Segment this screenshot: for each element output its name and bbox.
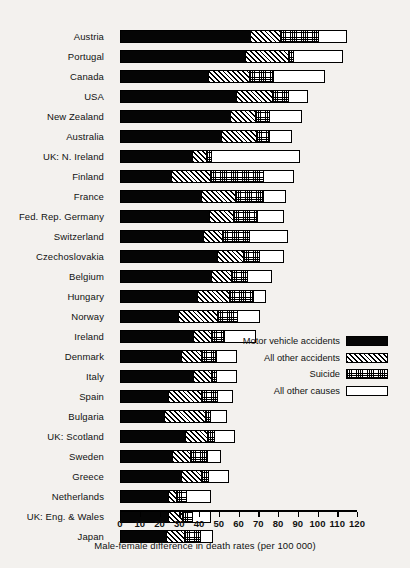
bar-segment-otheracc bbox=[197, 291, 229, 302]
country-label: Canada bbox=[0, 66, 112, 86]
chart-row: New Zealand bbox=[0, 106, 410, 126]
bar-segment-otheracc bbox=[185, 431, 207, 442]
bar-segment-other bbox=[208, 471, 228, 482]
bar-segment-other bbox=[263, 191, 285, 202]
bar-segment-motor bbox=[121, 211, 209, 222]
stacked-bar bbox=[120, 190, 286, 203]
stacked-bar bbox=[120, 130, 292, 143]
stacked-bar bbox=[120, 430, 235, 443]
bar-segment-suicide bbox=[201, 351, 215, 362]
country-label: Ireland bbox=[0, 326, 112, 346]
bar-segment-other bbox=[247, 271, 271, 282]
legend-swatch-other bbox=[346, 386, 388, 396]
chart-row: Canada bbox=[0, 66, 410, 86]
x-axis-title: Male-female difference in death rates (p… bbox=[0, 540, 410, 551]
bar-segment-other bbox=[249, 231, 286, 242]
bar-segment-otheracc bbox=[211, 271, 231, 282]
bar-segment-otheracc bbox=[178, 311, 217, 322]
country-label: Greece bbox=[0, 466, 112, 486]
legend-label: Motor vehicle accidents bbox=[243, 336, 340, 346]
axis-tick-label: 10 bbox=[134, 518, 145, 529]
stacked-bar-chart: AustriaPortugalCanadaUSANew ZealandAustr… bbox=[0, 0, 410, 568]
bar-segment-motor bbox=[121, 391, 168, 402]
chart-row: UK: N. Ireland bbox=[0, 146, 410, 166]
chart-row: Australia bbox=[0, 126, 410, 146]
bar-segment-otheracc bbox=[230, 111, 254, 122]
legend-label: All other causes bbox=[274, 386, 340, 396]
stacked-bar bbox=[120, 330, 256, 343]
legend-label: Suicide bbox=[310, 369, 341, 379]
bar-segment-otheracc bbox=[172, 451, 190, 462]
country-label: Italy bbox=[0, 366, 112, 386]
country-label: France bbox=[0, 186, 112, 206]
stacked-bar bbox=[120, 350, 237, 363]
bar-segment-other bbox=[211, 151, 298, 162]
bar-segment-motor bbox=[121, 251, 217, 262]
bar-segment-otheracc bbox=[171, 171, 210, 182]
bar-segment-motor bbox=[121, 311, 178, 322]
legend-item: Motor vehicle accidents bbox=[238, 333, 388, 350]
legend-swatch-motor bbox=[346, 336, 388, 346]
bar-segment-motor bbox=[121, 451, 172, 462]
bar-segment-otheracc bbox=[168, 391, 201, 402]
bar-segment-motor bbox=[121, 291, 197, 302]
country-label: Hungary bbox=[0, 286, 112, 306]
axis-tick bbox=[298, 512, 299, 517]
axis-tick bbox=[219, 512, 220, 517]
bar-segment-motor bbox=[121, 91, 236, 102]
bar-segment-motor bbox=[121, 151, 192, 162]
axis-tick bbox=[337, 512, 338, 517]
country-label: Spain bbox=[0, 386, 112, 406]
legend-item: Suicide bbox=[238, 366, 388, 383]
axis-tick-label: 50 bbox=[213, 518, 224, 529]
chart-row: Finland bbox=[0, 166, 410, 186]
axis-tick-label: 110 bbox=[330, 518, 345, 529]
axis-tick-label: 0 bbox=[117, 518, 122, 529]
bar-segment-suicide bbox=[201, 391, 217, 402]
legend-item: All other accidents bbox=[238, 350, 388, 367]
stacked-bar bbox=[120, 370, 237, 383]
axis-tick-label: 70 bbox=[253, 518, 264, 529]
country-label: UK: Eng. & Wales bbox=[0, 506, 112, 526]
bar-segment-other bbox=[288, 91, 306, 102]
country-label: Belgium bbox=[0, 266, 112, 286]
legend-swatch-suicide bbox=[346, 369, 388, 379]
bar-segment-suicide bbox=[217, 311, 237, 322]
axis-tick bbox=[179, 512, 180, 517]
bar-segment-suicide bbox=[243, 251, 259, 262]
bar-segment-suicide bbox=[256, 131, 269, 142]
legend-label: All other accidents bbox=[264, 353, 340, 363]
bar-segment-otheracc bbox=[193, 331, 211, 342]
axis-tick bbox=[318, 512, 319, 517]
bar-segment-motor bbox=[121, 171, 171, 182]
bar-segment-other bbox=[318, 31, 346, 42]
stacked-bar bbox=[120, 390, 233, 403]
bar-segment-suicide bbox=[211, 331, 223, 342]
bar-segment-other bbox=[257, 211, 283, 222]
axis-tick bbox=[199, 512, 200, 517]
chart-row: Fed. Rep. Germany bbox=[0, 206, 410, 226]
axis-tick-label: 20 bbox=[154, 518, 165, 529]
stacked-bar bbox=[120, 230, 288, 243]
chart-row: UK: Scotland bbox=[0, 426, 410, 446]
bar-segment-other bbox=[186, 491, 209, 502]
bar-segment-otheracc bbox=[192, 151, 206, 162]
country-label: Bulgaria bbox=[0, 406, 112, 426]
axis-tick-label: 90 bbox=[292, 518, 303, 529]
country-label: Switzerland bbox=[0, 226, 112, 246]
country-label: Czechoslovakia bbox=[0, 246, 112, 266]
stacked-bar bbox=[120, 50, 343, 63]
axis-tick bbox=[120, 512, 121, 517]
bar-segment-otheracc bbox=[201, 191, 235, 202]
stacked-bar bbox=[120, 270, 272, 283]
axis-tick bbox=[160, 512, 161, 517]
bar-segment-suicide bbox=[233, 211, 257, 222]
bar-segment-other bbox=[207, 451, 219, 462]
country-label: New Zealand bbox=[0, 106, 112, 126]
bar-segment-motor bbox=[121, 231, 203, 242]
stacked-bar bbox=[120, 450, 221, 463]
bar-segment-otheracc bbox=[181, 471, 201, 482]
chart-row: Switzerland bbox=[0, 226, 410, 246]
chart-rows: AustriaPortugalCanadaUSANew ZealandAustr… bbox=[0, 26, 410, 546]
bar-segment-motor bbox=[121, 491, 168, 502]
